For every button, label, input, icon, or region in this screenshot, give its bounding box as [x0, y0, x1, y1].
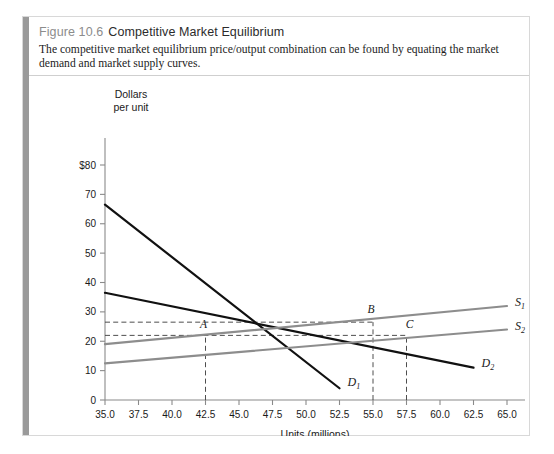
- x-tick-label: 57.5: [397, 409, 417, 420]
- y-tick-label: 20: [85, 336, 97, 347]
- figure-number: Figure 10.6: [39, 25, 103, 39]
- x-tick-label: 62.5: [464, 409, 484, 420]
- y-tick-label: 40: [85, 277, 97, 288]
- y-tick-label: 70: [85, 189, 97, 200]
- figure-container: Figure 10.6Competitive Market Equilibriu…: [22, 16, 530, 436]
- y-tick-label: $80: [79, 160, 96, 171]
- curve-label-S2: S2: [515, 319, 525, 335]
- y-tick-label: 10: [85, 365, 97, 376]
- x-tick-label: 50.0: [296, 409, 316, 420]
- x-tick-label: 37.5: [129, 409, 149, 420]
- y-tick-label: 50: [85, 248, 97, 259]
- y-tick-label: 0: [90, 395, 96, 406]
- x-tick-label: 65.0: [497, 409, 517, 420]
- x-tick-label: 45.0: [229, 409, 249, 420]
- point-label-C: C: [406, 318, 414, 330]
- figure-title-line: Figure 10.6Competitive Market Equilibriu…: [39, 25, 517, 39]
- y-tick-label: 30: [85, 306, 97, 317]
- x-tick-label: 40.0: [162, 409, 182, 420]
- chart-area: 010203040506070$8035.037.540.042.545.047…: [29, 76, 529, 435]
- curve-label-S1: S1: [515, 295, 525, 311]
- curve-label-D1: D1: [347, 375, 361, 391]
- figure-title: Competitive Market Equilibrium: [108, 25, 284, 39]
- x-tick-label: 60.0: [430, 409, 450, 420]
- y-axis-title-line1: Dollars: [115, 88, 148, 100]
- curve-label-D2: D2: [481, 356, 495, 372]
- curve-D2: [105, 293, 474, 368]
- x-tick-label: 55.0: [363, 409, 383, 420]
- point-label-A: A: [199, 318, 208, 330]
- x-axis-title: Units (millions): [281, 428, 350, 436]
- curve-S1: [105, 306, 507, 344]
- y-axis-title-line2: per unit: [113, 101, 148, 113]
- equilibrium-chart: 010203040506070$8035.037.540.042.545.047…: [29, 76, 531, 436]
- y-tick-label: 60: [85, 218, 97, 229]
- x-tick-label: 47.5: [263, 409, 283, 420]
- x-tick-label: 35.0: [95, 409, 115, 420]
- figure-caption: The competitive market equilibrium price…: [39, 43, 511, 70]
- x-tick-label: 52.5: [330, 409, 350, 420]
- point-label-B: B: [367, 303, 374, 315]
- figure-header: Figure 10.6Competitive Market Equilibriu…: [29, 17, 529, 75]
- x-tick-label: 42.5: [196, 409, 216, 420]
